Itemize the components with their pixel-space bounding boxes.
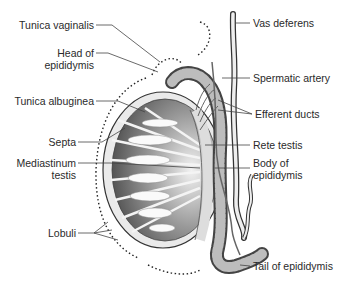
label-efferent-ducts: Efferent ducts (255, 108, 320, 120)
label-mediastinum-testis: Mediastinum testis (16, 157, 76, 181)
label-body-of-epididymis: Body of epididymis (253, 157, 303, 181)
label-spermatic-artery: Spermatic artery (253, 72, 330, 84)
label-lobuli: Lobuli (48, 227, 76, 239)
label-rete-testis: Rete testis (253, 139, 303, 151)
label-tail-of-epididymis: Tail of epididymis (253, 260, 333, 272)
label-tunica-vaginalis: Tunica vaginalis (19, 19, 94, 31)
testis-anatomy-diagram: Tunica vaginalis Head of epididymis Tuni… (0, 0, 345, 285)
label-line-1: Body of (253, 157, 303, 169)
label-tunica-albuginea: Tunica albuginea (14, 95, 94, 107)
vas-deferens-tube (233, 14, 252, 238)
label-septa: Septa (49, 136, 76, 148)
label-vas-deferens: Vas deferens (253, 17, 314, 29)
label-line-2: testis (16, 169, 76, 181)
label-line-2: epididymis (253, 169, 303, 181)
label-line-1: Head of (44, 47, 94, 59)
testis-body (103, 92, 223, 248)
label-line-2: epididymis (44, 59, 94, 71)
label-head-of-epididymis: Head of epididymis (44, 47, 94, 71)
label-line-1: Mediastinum (16, 157, 76, 169)
